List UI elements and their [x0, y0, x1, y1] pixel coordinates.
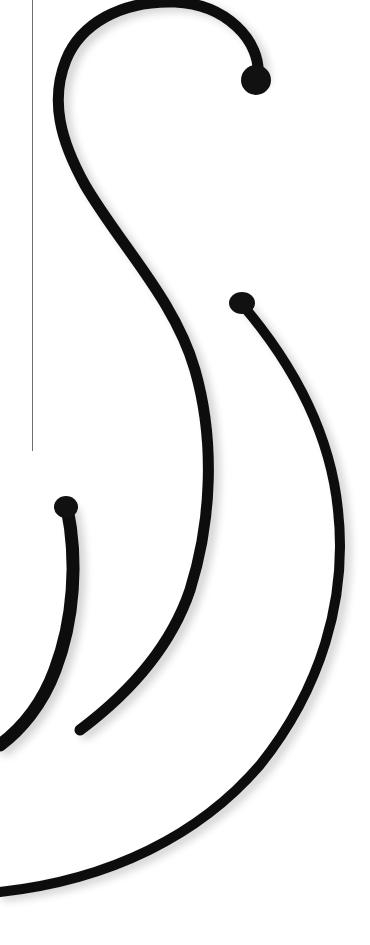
main-s-curve: [58, 2, 258, 730]
swirl-illustration: [0, 0, 370, 945]
main-s-curve-tip: [241, 65, 271, 95]
right-arc-tip: [229, 292, 255, 314]
left-hook-tip: [54, 496, 78, 518]
swirl-strokes: [0, 0, 370, 945]
left-hook: [0, 508, 73, 745]
right-arc: [0, 302, 340, 892]
